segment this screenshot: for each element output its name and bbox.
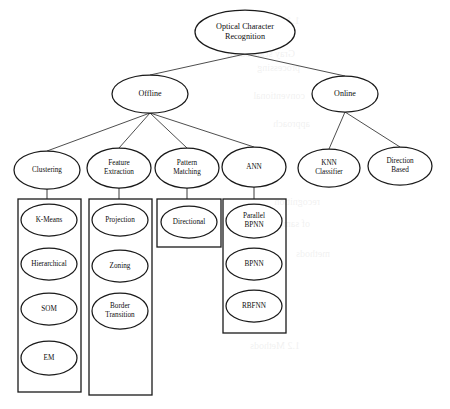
ann-group-item-2-label: RBFNN bbox=[242, 302, 267, 310]
feature-extraction-group-item-0-label: Projection bbox=[105, 216, 135, 224]
node-ann-label: ANN bbox=[246, 163, 262, 171]
clustering-group-item-1-label: Hierarchical bbox=[31, 260, 67, 268]
ocr-taxonomy-diagram: 1.1 Algorithms of theGray scale basedpro… bbox=[0, 0, 450, 409]
node-offline-label: Offline bbox=[139, 89, 162, 98]
clustering-group-item-3[interactable]: EM bbox=[21, 341, 77, 375]
node-direction-based-label: Direction bbox=[386, 157, 414, 165]
connector-offline-to-pattern-matching bbox=[150, 113, 187, 148]
connector-root-to-online bbox=[245, 54, 345, 76]
node-online-label: Online bbox=[334, 89, 356, 98]
clustering-group-item-0-label: K-Means bbox=[36, 216, 63, 224]
node-direction-based[interactable]: DirectionBased bbox=[368, 147, 432, 185]
pattern-matching-group-item-0[interactable]: Directional bbox=[161, 206, 217, 238]
node-clustering[interactable]: Clustering bbox=[14, 151, 80, 189]
connector-offline-to-ann bbox=[150, 113, 254, 147]
node-offline[interactable]: Offline bbox=[112, 75, 188, 113]
node-ann[interactable]: ANN bbox=[222, 147, 286, 187]
node-knn-classifier[interactable]: KNNClassifier bbox=[298, 149, 360, 187]
node-pattern-matching-label: Matching bbox=[173, 168, 201, 176]
ann-group-item-0-label: Parallel bbox=[243, 212, 265, 220]
clustering-group-item-3-label: EM bbox=[44, 354, 55, 362]
connector-offline-to-clustering bbox=[47, 113, 150, 151]
node-online[interactable]: Online bbox=[312, 76, 378, 112]
feature-extraction-group-item-1[interactable]: Zoning bbox=[92, 250, 148, 282]
ann-group-item-0[interactable]: ParallelBPNN bbox=[226, 204, 282, 238]
node-knn-classifier-label: Classifier bbox=[315, 168, 343, 176]
ann-group-item-1-label: BPNN bbox=[244, 260, 264, 268]
node-feature-extraction-label: Feature bbox=[108, 159, 130, 167]
root-node-optical-character-recognition-label: Recognition bbox=[225, 32, 265, 41]
connector-online-to-direction-based bbox=[345, 112, 400, 147]
feature-extraction-group-item-2-label: Transition bbox=[105, 311, 135, 319]
root-node-optical-character-recognition-label: Optical Character bbox=[216, 22, 274, 31]
taxonomy-tree-svg: K-MeansHierarchicalSOMEMProjectionZoning… bbox=[0, 0, 450, 409]
feature-extraction-group-item-0[interactable]: Projection bbox=[92, 204, 148, 236]
feature-extraction-group-item-2[interactable]: BorderTransition bbox=[92, 293, 148, 329]
ann-group-item-2[interactable]: RBFNN bbox=[226, 290, 282, 322]
ann-group-item-1[interactable]: BPNN bbox=[226, 248, 282, 280]
clustering-group-item-0[interactable]: K-Means bbox=[21, 204, 77, 236]
node-pattern-matching-label: Pattern bbox=[177, 159, 198, 167]
clustering-group-item-1[interactable]: Hierarchical bbox=[21, 248, 77, 280]
root-node-optical-character-recognition[interactable]: Optical CharacterRecognition bbox=[195, 10, 295, 54]
node-clustering-label: Clustering bbox=[32, 166, 62, 174]
connector-root-to-offline bbox=[150, 54, 245, 75]
node-feature-extraction-label: Extraction bbox=[104, 168, 134, 176]
node-feature-extraction[interactable]: FeatureExtraction bbox=[87, 148, 151, 188]
feature-extraction-group-item-2-label: Border bbox=[110, 302, 131, 310]
pattern-matching-group-item-0-label: Directional bbox=[173, 218, 205, 226]
clustering-group-item-2[interactable]: SOM bbox=[21, 293, 77, 325]
clustering-group-item-2-label: SOM bbox=[41, 305, 57, 313]
node-direction-based-label: Based bbox=[391, 166, 409, 174]
ann-group-item-0-label: BPNN bbox=[244, 221, 264, 229]
node-knn-classifier-label: KNN bbox=[321, 159, 337, 167]
node-pattern-matching[interactable]: PatternMatching bbox=[155, 148, 219, 188]
connector-online-to-knn-classifier bbox=[329, 112, 345, 149]
feature-extraction-group-item-1-label: Zoning bbox=[110, 262, 131, 270]
